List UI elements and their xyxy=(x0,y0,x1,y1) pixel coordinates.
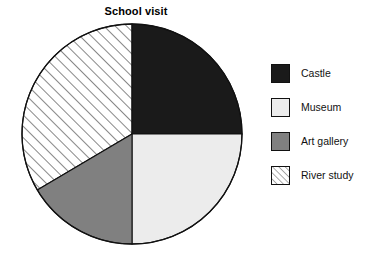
chart-title: School visit xyxy=(0,5,272,17)
pie-slice-museum[interactable] xyxy=(132,134,242,244)
legend-label-castle: Castle xyxy=(301,68,331,79)
legend-item-castle[interactable]: Castle xyxy=(271,62,375,84)
legend-item-art-gallery[interactable]: Art gallery xyxy=(271,130,375,152)
legend-label-museum: Museum xyxy=(301,102,341,113)
pie-plot-area xyxy=(18,20,246,248)
pie-svg xyxy=(18,20,246,248)
legend-swatch-art-gallery xyxy=(271,132,290,151)
legend-item-river-study[interactable]: River study xyxy=(271,164,375,186)
pie-chart-figure: School visit xyxy=(0,0,377,255)
legend-label-river-study: River study xyxy=(301,170,354,181)
legend-swatch-museum xyxy=(271,98,290,117)
legend-item-museum[interactable]: Museum xyxy=(271,96,375,118)
legend-swatch-river-study xyxy=(271,166,290,185)
pie-slices xyxy=(22,24,242,244)
legend-label-art-gallery: Art gallery xyxy=(301,136,348,147)
hatch-pattern-icon xyxy=(272,167,289,184)
legend-swatch-castle xyxy=(271,64,290,83)
pie-slice-castle[interactable] xyxy=(132,24,242,134)
chart-legend: Castle Museum Art gallery River study xyxy=(271,62,375,197)
